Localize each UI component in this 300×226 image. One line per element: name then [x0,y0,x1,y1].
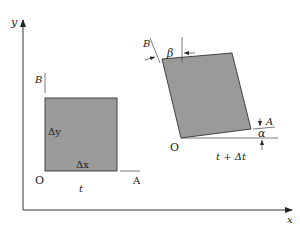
beta-label: β [166,47,173,60]
deformed-point-a-label: A [265,116,273,127]
deformed-fluid-element [162,53,251,138]
delta-x-label: Δx [76,159,89,170]
x-axis-label: x [287,214,293,225]
initial-point-a-label: A [132,175,141,186]
initial-point-b-label: B [34,74,42,85]
alpha-label: α [258,127,266,140]
fluid-element-diagram: y x B A O Δy Δx t B β A α O t + Δt [0,0,300,226]
initial-origin-label: O [35,174,44,187]
initial-time-label: t [79,183,84,194]
beta-arrow-left [145,57,155,60]
delta-y-label: Δy [48,126,61,137]
y-axis-label: y [10,16,18,29]
deformed-origin-label: O [170,141,179,154]
deformed-b-reference-line [150,38,160,63]
deformed-point-b-label: B [142,38,150,49]
deformed-time-label: t + Δt [216,151,247,162]
